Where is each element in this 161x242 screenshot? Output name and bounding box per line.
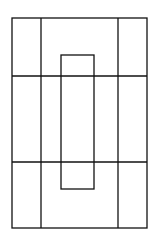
outer-rectangle xyxy=(12,18,147,228)
grid-diagram xyxy=(0,0,161,242)
inner-rectangle xyxy=(61,55,94,189)
